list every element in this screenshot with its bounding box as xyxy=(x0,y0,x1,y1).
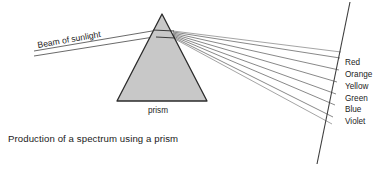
diagram-canvas: Beam of sunlight prism Red Orange Yellow… xyxy=(0,0,380,170)
prism-triangle xyxy=(117,14,207,101)
spectrum-label-yellow: Yellow xyxy=(345,82,368,91)
spectrum-label-orange: Orange xyxy=(345,70,373,79)
spectrum-rays-group xyxy=(173,31,341,124)
spectrum-label-blue: Blue xyxy=(345,105,362,114)
prism-spectrum-figure: Beam of sunlight prism Red Orange Yellow… xyxy=(0,0,380,170)
spectrum-label-red: Red xyxy=(345,58,360,67)
ray-red xyxy=(173,32,340,58)
figure-caption: Production of a spectrum using a prism xyxy=(8,133,178,144)
spectrum-label-green: Green xyxy=(345,94,368,103)
spectrum-label-violet: Violet xyxy=(345,117,366,126)
ray-violet xyxy=(173,37,333,117)
prism-label: prism xyxy=(148,106,168,115)
